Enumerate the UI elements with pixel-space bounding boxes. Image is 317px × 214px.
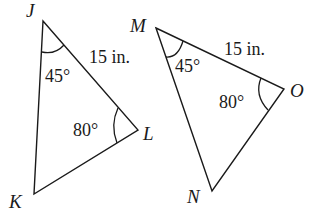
side-jl-length: 15 in. xyxy=(89,47,130,67)
vertex-label-o: O xyxy=(290,80,304,101)
vertex-label-j: J xyxy=(26,0,36,21)
vertex-label-l: L xyxy=(142,123,154,144)
side-mo-length: 15 in. xyxy=(224,39,265,59)
vertex-label-n: N xyxy=(186,186,201,207)
vertex-label-k: K xyxy=(8,191,23,212)
angle-j-arc xyxy=(42,45,64,53)
triangle-mno: M O N 45° 80° 15 in. xyxy=(129,15,304,207)
angle-m-measure: 45° xyxy=(175,56,200,76)
angle-j-measure: 45° xyxy=(45,66,70,86)
angle-m-arc xyxy=(166,41,183,57)
angle-o-arc xyxy=(259,78,268,110)
congruent-triangles-figure: J L K 45° 80° 15 in. M O N 45° 80° 15 in… xyxy=(0,0,317,214)
angle-l-measure: 80° xyxy=(73,120,98,140)
angle-l-arc xyxy=(114,108,118,143)
angle-o-measure: 80° xyxy=(219,92,244,112)
vertex-label-m: M xyxy=(129,15,147,36)
